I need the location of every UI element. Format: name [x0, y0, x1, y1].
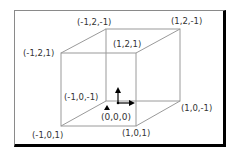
- label-front-top-left: (-1,2,1): [23, 49, 54, 58]
- label-front-bottom-left: (-1,0,1): [32, 131, 63, 140]
- origin-point: [117, 102, 120, 105]
- label-front-top-right: (1,2,1): [113, 40, 141, 49]
- label-back-top-left: (-1,2,-1): [77, 18, 111, 27]
- z-arrowhead-icon: [104, 105, 110, 110]
- label-back-bottom-left: (-1,0,-1): [64, 93, 98, 102]
- edge-bottom-right: [136, 101, 180, 126]
- label-back-bottom-right: (1,0,-1): [181, 104, 212, 113]
- edge-top-right: [136, 29, 180, 53]
- label-back-top-right: (1,2,-1): [171, 17, 202, 26]
- edge-bottom-left: [61, 101, 106, 126]
- y-arrowhead-icon: [115, 87, 121, 93]
- label-origin: (0,0,0): [101, 113, 131, 122]
- edge-top-left: [61, 29, 106, 53]
- label-front-bottom-right: (1,0,1): [122, 129, 150, 138]
- axes-icon: [104, 87, 135, 110]
